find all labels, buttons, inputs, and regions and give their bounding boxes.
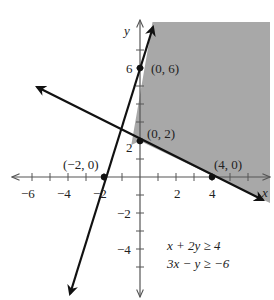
inequality-first: x + 2y ≥ 4 (166, 238, 221, 253)
x-tick-label: 2 (174, 186, 181, 201)
inequality-second: 3x − y ≥ −6 (166, 256, 230, 271)
point-label-4-0: (4, 0) (214, 157, 242, 172)
point-label-0-6: (0, 6) (151, 61, 179, 76)
point-label-0-2: (0, 2) (147, 126, 175, 141)
point-0-6 (137, 65, 143, 71)
y-tick-label: 6 (126, 61, 133, 76)
y-tick-label: −2 (117, 206, 131, 221)
point-neg2-0 (101, 174, 107, 180)
x-tick-label: −2 (93, 186, 107, 201)
x-tick-label: −4 (57, 186, 71, 201)
x-axis-label: x (261, 185, 268, 200)
y-tick-label: 2 (126, 140, 133, 155)
graph-canvas: y x −6 −4 −2 2 4 6 2 −2 −4 (0, 6) (0, 2)… (0, 0, 274, 300)
x-tick-label: 4 (209, 186, 216, 201)
y-tick-label: −4 (117, 242, 131, 257)
point-0-2 (137, 138, 143, 144)
point-4-0 (209, 174, 215, 180)
y-axis-label: y (122, 23, 130, 38)
point-label-neg2-0: (−2, 0) (63, 157, 99, 172)
x-tick-label: −6 (21, 186, 35, 201)
shaded-solution-region (131, 22, 270, 203)
